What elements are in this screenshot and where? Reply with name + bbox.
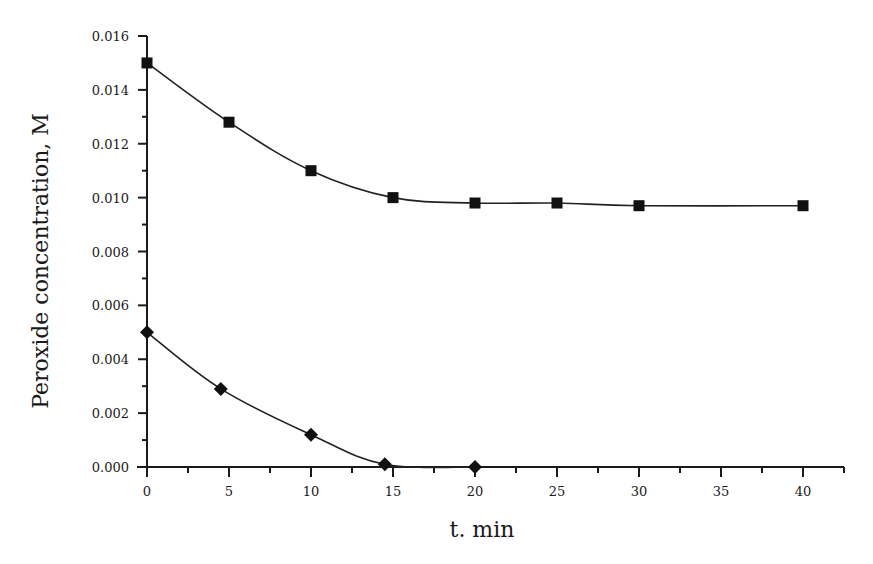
series-line xyxy=(147,63,803,206)
series-diamonds xyxy=(140,325,482,474)
y-tick-label: 0.016 xyxy=(92,29,129,44)
y-tick-label: 0.002 xyxy=(92,406,129,421)
diamond-marker xyxy=(468,460,482,474)
y-tick-label: 0.008 xyxy=(92,245,129,260)
x-tick-label: 20 xyxy=(467,484,484,499)
series-squares xyxy=(142,57,809,211)
diamond-marker xyxy=(378,457,392,471)
x-axis-title: t. min xyxy=(450,517,515,542)
y-tick-label: 0.012 xyxy=(92,137,129,152)
axes: 0510152025303540 0.0000.0020.0040.0060.0… xyxy=(92,29,844,499)
x-tick-label: 10 xyxy=(303,484,320,499)
square-marker xyxy=(798,200,809,211)
x-tick-label: 30 xyxy=(631,484,648,499)
peroxide-concentration-chart: 0510152025303540 0.0000.0020.0040.0060.0… xyxy=(0,0,873,564)
square-marker xyxy=(470,198,481,209)
y-axis-ticks: 0.0000.0020.0040.0060.0080.0100.0120.014… xyxy=(92,29,147,475)
square-marker xyxy=(552,198,563,209)
y-tick-label: 0.006 xyxy=(92,298,129,313)
square-marker xyxy=(142,57,153,68)
y-tick-label: 0.014 xyxy=(92,83,129,98)
series-layer xyxy=(140,57,809,474)
square-marker xyxy=(224,117,235,128)
diamond-marker xyxy=(304,428,318,442)
diamond-marker xyxy=(214,382,228,396)
square-marker xyxy=(388,192,399,203)
square-marker xyxy=(306,165,317,176)
y-tick-label: 0.010 xyxy=(92,191,129,206)
x-tick-label: 40 xyxy=(795,484,812,499)
x-tick-label: 15 xyxy=(385,484,402,499)
x-tick-label: 5 xyxy=(225,484,233,499)
square-marker xyxy=(634,200,645,211)
y-axis-title: Peroxide concentration, M xyxy=(28,113,53,409)
series-line xyxy=(147,332,475,467)
x-tick-label: 0 xyxy=(143,484,151,499)
x-tick-label: 25 xyxy=(549,484,566,499)
y-tick-label: 0.004 xyxy=(92,352,129,367)
x-axis-ticks: 0510152025303540 xyxy=(143,467,844,499)
y-tick-label: 0.000 xyxy=(92,460,129,475)
x-tick-label: 35 xyxy=(713,484,730,499)
